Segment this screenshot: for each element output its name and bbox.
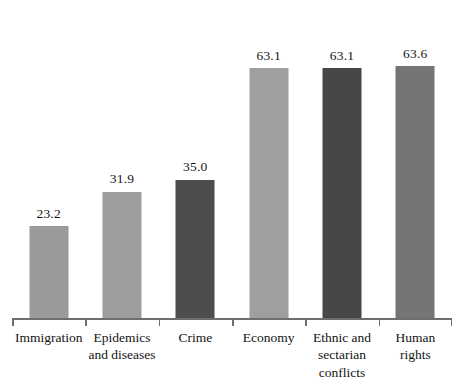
category-label-line: Human bbox=[376, 329, 454, 346]
category-label: Humanrights bbox=[376, 329, 454, 364]
bar-rect[interactable] bbox=[29, 226, 68, 318]
category-label-line: Immigration bbox=[10, 329, 88, 346]
axis-tick bbox=[379, 318, 381, 326]
axis-tick bbox=[12, 318, 14, 326]
category-label: Economy bbox=[230, 329, 308, 346]
category-label: Immigration bbox=[10, 329, 88, 346]
bar-column[interactable]: 63.1 bbox=[249, 49, 288, 318]
axis-tick bbox=[305, 318, 307, 326]
bar-value-label: 31.9 bbox=[110, 172, 134, 192]
axis-tick bbox=[232, 318, 234, 326]
bar-value-label: 23.2 bbox=[36, 207, 60, 227]
bar-group: 31.9 bbox=[85, 0, 158, 318]
category-label-line: and diseases bbox=[83, 346, 161, 363]
category-label: Ethnic andsectarianconflicts bbox=[303, 329, 381, 381]
bar-column[interactable]: 23.2 bbox=[29, 207, 68, 318]
category-label-line: Crime bbox=[156, 329, 234, 346]
category-label: Crime bbox=[156, 329, 234, 346]
bar-rect[interactable] bbox=[176, 180, 215, 319]
bar-value-label: 63.6 bbox=[403, 47, 427, 67]
bar-rect[interactable] bbox=[249, 68, 288, 318]
bar-value-label: 63.1 bbox=[330, 49, 354, 69]
bar-value-label: 35.0 bbox=[183, 160, 207, 180]
bar-value-label: 63.1 bbox=[256, 49, 280, 69]
category-label-line: Ethnic and bbox=[303, 329, 381, 346]
bar-group: 63.6 bbox=[379, 0, 452, 318]
plot-area: 23.231.935.063.163.163.6 bbox=[0, 0, 463, 318]
axis-tick bbox=[159, 318, 161, 326]
category-label-line: Economy bbox=[230, 329, 308, 346]
bar-column[interactable]: 63.1 bbox=[322, 49, 361, 318]
bar-group: 35.0 bbox=[159, 0, 232, 318]
category-label: Epidemicsand diseases bbox=[83, 329, 161, 364]
axis-tick bbox=[451, 318, 453, 326]
bar-rect[interactable] bbox=[322, 68, 361, 318]
bar-column[interactable]: 63.6 bbox=[396, 47, 435, 318]
bar-rect[interactable] bbox=[396, 66, 435, 318]
category-label-line: Epidemics bbox=[83, 329, 161, 346]
bar-column[interactable]: 31.9 bbox=[102, 172, 141, 318]
bar-column[interactable]: 35.0 bbox=[176, 160, 215, 318]
bar-group: 63.1 bbox=[305, 0, 378, 318]
bar-rect[interactable] bbox=[102, 192, 141, 318]
category-label-line: conflicts bbox=[303, 364, 381, 381]
bar-group: 63.1 bbox=[232, 0, 305, 318]
bar-chart: 23.231.935.063.163.163.6 ImmigrationEpid… bbox=[0, 0, 463, 388]
category-label-line: rights bbox=[376, 346, 454, 363]
category-label-line: sectarian bbox=[303, 346, 381, 363]
bar-group: 23.2 bbox=[12, 0, 85, 318]
axis-tick bbox=[85, 318, 87, 326]
category-label-row: ImmigrationEpidemicsand diseasesCrimeEco… bbox=[0, 329, 463, 388]
